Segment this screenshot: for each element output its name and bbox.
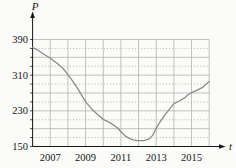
labels: 39031023015020072009201120132015Pt xyxy=(12,0,233,163)
chart-svg: 39031023015020072009201120132015Pt xyxy=(0,0,236,168)
y-tick-label: 390 xyxy=(12,34,28,45)
axes xyxy=(30,12,225,149)
x-tick-label: 2007 xyxy=(40,152,61,163)
x-tick-label: 2009 xyxy=(75,152,96,163)
y-tick-label: 230 xyxy=(12,105,28,116)
y-axis-title: P xyxy=(31,0,39,12)
grid xyxy=(33,40,210,147)
x-axis-arrow-icon xyxy=(219,144,226,149)
x-axis-title: t xyxy=(229,140,233,152)
x-tick-label: 2015 xyxy=(181,152,202,163)
x-tick-label: 2013 xyxy=(146,152,167,163)
line-chart-figure: 39031023015020072009201120132015Pt xyxy=(0,0,236,168)
x-tick-label: 2011 xyxy=(111,152,132,163)
y-axis-arrow-icon xyxy=(30,12,35,19)
y-tick-label: 150 xyxy=(12,141,28,152)
y-tick-label: 310 xyxy=(12,70,28,81)
